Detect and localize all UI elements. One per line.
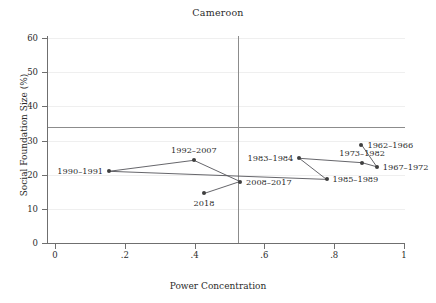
- x-tick-mark: [195, 244, 196, 249]
- plot-area: 1990–19911992–200720182008–20171983–1984…: [0, 0, 436, 303]
- x-tick-label: .8: [322, 250, 346, 260]
- data-point-label: 1990–1991: [57, 166, 103, 176]
- y-tick-label: 0: [8, 238, 38, 248]
- data-point-label: 1992–2007: [171, 145, 217, 155]
- y-tick-mark: [42, 175, 48, 176]
- x-tick-mark: [55, 244, 56, 249]
- x-tick-mark: [264, 244, 265, 249]
- x-tick-mark: [334, 244, 335, 249]
- data-point: [360, 161, 364, 165]
- x-tick-label: .6: [252, 250, 276, 260]
- x-tick-label: .4: [183, 250, 207, 260]
- x-tick-label: 0: [43, 250, 67, 260]
- y-tick-mark: [42, 243, 48, 244]
- x-tick-label: 1: [392, 250, 416, 260]
- y-tick-mark: [42, 141, 48, 142]
- y-tick-mark: [42, 209, 48, 210]
- data-point-label: 1985–1989: [333, 174, 379, 184]
- data-point: [375, 165, 379, 169]
- y-tick-mark: [42, 72, 48, 73]
- y-tick-label: 60: [8, 33, 38, 43]
- x-tick-mark: [404, 244, 405, 249]
- data-point-label: 1967–1972: [383, 162, 429, 172]
- data-point-label: 1962–1966: [367, 140, 413, 150]
- chart-container: Cameroon 1990–19911992–200720182008–2017…: [0, 0, 436, 303]
- x-axis-title: Power Concentration: [0, 281, 436, 291]
- data-point-label: 2018: [194, 198, 215, 208]
- data-point-label: 1983–1984: [248, 153, 294, 163]
- data-point-label: 2008–2017: [246, 177, 292, 187]
- y-axis-title: Social Foundation Size (%): [19, 45, 29, 225]
- y-tick-mark: [42, 38, 48, 39]
- x-axis-line: [47, 243, 405, 244]
- x-tick-label: .2: [113, 250, 137, 260]
- y-tick-mark: [42, 106, 48, 107]
- data-point: [238, 180, 242, 184]
- x-tick-mark: [125, 244, 126, 249]
